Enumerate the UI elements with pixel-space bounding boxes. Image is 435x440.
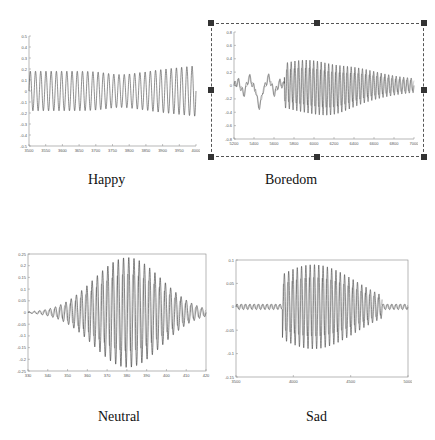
svg-text:3500: 3500 xyxy=(25,148,35,153)
svg-text:3950: 3950 xyxy=(175,148,185,153)
svg-text:0.25: 0.25 xyxy=(18,252,27,257)
caption-neutral: Neutral xyxy=(98,409,140,425)
svg-text:420: 420 xyxy=(203,373,210,378)
svg-text:0.2: 0.2 xyxy=(226,70,232,75)
svg-text:370: 370 xyxy=(104,373,111,378)
svg-text:390: 390 xyxy=(143,373,150,378)
svg-text:6400: 6400 xyxy=(350,141,360,146)
svg-text:3900: 3900 xyxy=(158,148,168,153)
svg-text:6200: 6200 xyxy=(330,141,340,146)
svg-text:-0.05: -0.05 xyxy=(225,328,235,333)
svg-text:-0.1: -0.1 xyxy=(19,333,27,338)
svg-text:410: 410 xyxy=(183,373,190,378)
svg-text:0: 0 xyxy=(24,310,27,315)
svg-text:360: 360 xyxy=(84,373,91,378)
sad-waveform: 0.10.050-0.05-0.1-0.153500400045005000 xyxy=(222,256,412,391)
neutral-waveform: 0.250.20.150.10.050-0.05-0.1-0.15-0.2-0.… xyxy=(10,250,210,385)
svg-text:3800: 3800 xyxy=(125,148,135,153)
svg-text:5600: 5600 xyxy=(270,141,280,146)
svg-text:0.05: 0.05 xyxy=(226,281,235,286)
svg-text:4000: 4000 xyxy=(289,379,299,384)
svg-text:3600: 3600 xyxy=(58,148,68,153)
resize-handle-br[interactable] xyxy=(421,154,427,160)
happy-waveform: 0.50.40.30.20.10-0.1-0.2-0.3-0.4-0.53500… xyxy=(15,30,200,160)
resize-handle-bl[interactable] xyxy=(208,154,214,160)
svg-text:-0.1: -0.1 xyxy=(20,100,28,105)
svg-text:3500: 3500 xyxy=(232,379,242,384)
svg-text:4500: 4500 xyxy=(346,379,356,384)
svg-text:0.1: 0.1 xyxy=(20,287,26,292)
svg-text:-0.2: -0.2 xyxy=(19,357,27,362)
caption-sad: Sad xyxy=(306,409,327,425)
boredom-chart[interactable]: 0.80.60.40.20-0.2-0.4-0.6-0.852005400560… xyxy=(222,28,418,153)
svg-text:0.3: 0.3 xyxy=(21,56,27,61)
svg-text:400: 400 xyxy=(163,373,170,378)
neutral-chart: 0.250.20.150.10.050-0.05-0.1-0.15-0.2-0.… xyxy=(10,250,210,385)
svg-text:-0.6: -0.6 xyxy=(225,123,233,128)
happy-chart: 0.50.40.30.20.10-0.1-0.2-0.3-0.4-0.53500… xyxy=(15,30,200,160)
caption-boredom: Boredom xyxy=(265,172,317,188)
boredom-waveform: 0.80.60.40.20-0.2-0.4-0.6-0.852005400560… xyxy=(222,28,418,153)
svg-text:0.15: 0.15 xyxy=(18,275,27,280)
svg-text:5200: 5200 xyxy=(230,141,240,146)
svg-text:0.5: 0.5 xyxy=(21,34,27,39)
svg-text:0.6: 0.6 xyxy=(226,43,232,48)
svg-text:6000: 6000 xyxy=(310,141,320,146)
svg-text:380: 380 xyxy=(124,373,131,378)
svg-text:0.2: 0.2 xyxy=(21,67,27,72)
svg-text:0.1: 0.1 xyxy=(228,258,234,263)
resize-handle-tc[interactable] xyxy=(314,20,320,26)
resize-handle-tl[interactable] xyxy=(208,20,214,26)
svg-text:-0.1: -0.1 xyxy=(227,351,235,356)
svg-text:6800: 6800 xyxy=(390,141,400,146)
resize-handle-mr[interactable] xyxy=(421,87,427,93)
caption-happy: Happy xyxy=(88,172,125,188)
svg-text:0: 0 xyxy=(232,304,235,309)
svg-text:340: 340 xyxy=(44,373,51,378)
sad-chart: 0.10.050-0.05-0.1-0.153500400045005000 xyxy=(222,256,412,391)
resize-handle-tr[interactable] xyxy=(421,20,427,26)
svg-text:3550: 3550 xyxy=(41,148,51,153)
svg-text:0.1: 0.1 xyxy=(21,78,27,83)
svg-text:3650: 3650 xyxy=(75,148,85,153)
svg-text:3700: 3700 xyxy=(91,148,101,153)
svg-text:3750: 3750 xyxy=(108,148,118,153)
svg-text:0.2: 0.2 xyxy=(20,263,26,268)
resize-handle-bc[interactable] xyxy=(314,154,320,160)
svg-text:0: 0 xyxy=(25,89,28,94)
svg-text:4000: 4000 xyxy=(192,148,200,153)
svg-text:5400: 5400 xyxy=(250,141,260,146)
svg-text:0.4: 0.4 xyxy=(21,45,27,50)
svg-text:0.4: 0.4 xyxy=(226,56,232,61)
svg-text:330: 330 xyxy=(25,373,32,378)
svg-text:5800: 5800 xyxy=(290,141,300,146)
svg-text:-0.3: -0.3 xyxy=(20,122,28,127)
resize-handle-ml[interactable] xyxy=(208,87,214,93)
svg-text:3850: 3850 xyxy=(141,148,151,153)
svg-text:350: 350 xyxy=(64,373,71,378)
svg-text:-0.2: -0.2 xyxy=(225,96,233,101)
svg-text:7000: 7000 xyxy=(410,141,418,146)
svg-text:0.05: 0.05 xyxy=(18,298,27,303)
svg-text:-0.15: -0.15 xyxy=(17,345,27,350)
svg-text:0.8: 0.8 xyxy=(226,30,232,35)
svg-text:5000: 5000 xyxy=(404,379,412,384)
svg-text:-0.2: -0.2 xyxy=(20,111,28,116)
svg-text:-0.4: -0.4 xyxy=(225,110,233,115)
svg-text:6600: 6600 xyxy=(370,141,380,146)
svg-text:-0.4: -0.4 xyxy=(20,133,28,138)
svg-text:-0.05: -0.05 xyxy=(17,322,27,327)
svg-text:0: 0 xyxy=(230,83,233,88)
